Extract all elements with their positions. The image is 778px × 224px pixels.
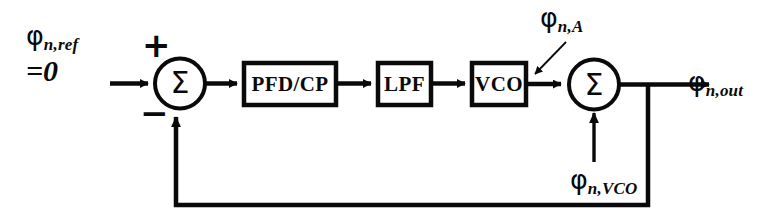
phi-glyph-vco: φ [570, 164, 588, 195]
phi-subscript-vco: n,VCO [588, 179, 638, 198]
vco-noise-label: φn,VCO [570, 166, 637, 197]
adder-noise-label: φn,A [540, 4, 583, 35]
output-phase-noise-label: φn,out [688, 68, 743, 99]
annotation-pointer-adder-noise [535, 42, 566, 74]
phi-subscript-ref: n,ref [44, 35, 79, 54]
block-label-lpf: LPF [378, 74, 431, 95]
block-label-vco: VCO [472, 74, 526, 95]
phi-subscript-out: n,out [706, 81, 743, 100]
input-phase-noise-label: φn,ref [26, 22, 78, 53]
diagram-vector-layer [0, 0, 778, 224]
phi-subscript-adder: n,A [558, 17, 584, 36]
block-label-pfd-cp: PFD/CP [244, 74, 336, 95]
input-value-label: =0 [26, 56, 58, 86]
plus-sign-label: + [142, 28, 171, 62]
minus-sign-label: − [140, 96, 169, 130]
right-sum-sigma-symbol: Σ [569, 70, 619, 100]
phi-glyph-out: φ [688, 66, 706, 97]
phi-glyph-ref: φ [26, 20, 44, 51]
block-diagram-canvas: φn,ref =0 φn,A φn,VCO φn,out PFD/CP LPF … [0, 0, 778, 224]
phi-glyph-adder: φ [540, 2, 558, 33]
